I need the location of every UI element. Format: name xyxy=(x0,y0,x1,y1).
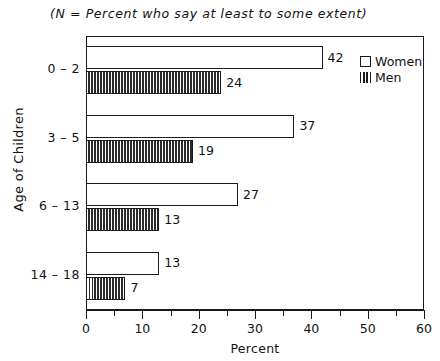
y-axis-label-3: 14 – 18 xyxy=(2,267,80,282)
bar-men-3 xyxy=(86,277,125,300)
x-tick-label-40: 40 xyxy=(296,321,326,336)
bar-value-women-3: 13 xyxy=(164,255,180,270)
x-tick-major-10 xyxy=(142,310,143,319)
bar-women-1 xyxy=(86,115,294,138)
x-tick-major-40 xyxy=(311,310,312,319)
bar-value-men-1: 19 xyxy=(198,143,214,158)
y-axis-label-0: 0 – 2 xyxy=(2,61,80,76)
x-tick-minor-45 xyxy=(340,310,341,316)
bar-men-2 xyxy=(86,208,159,231)
x-tick-minor-25 xyxy=(227,310,228,316)
x-tick-minor-5 xyxy=(114,310,115,316)
x-tick-label-0: 0 xyxy=(71,321,101,336)
x-tick-minor-15 xyxy=(171,310,172,316)
plot-area: 422437192713137 xyxy=(86,36,424,310)
x-tick-label-20: 20 xyxy=(184,321,214,336)
bar-women-0 xyxy=(86,46,323,69)
x-axis-title: Percent xyxy=(86,341,424,356)
x-tick-minor-55 xyxy=(396,310,397,316)
x-tick-major-30 xyxy=(255,310,256,319)
x-tick-major-0 xyxy=(86,310,87,319)
x-tick-major-60 xyxy=(424,310,425,319)
bar-women-2 xyxy=(86,183,238,206)
bar-value-men-2: 13 xyxy=(164,212,180,227)
chart-subtitle: (N = Percent who say at least to some ex… xyxy=(50,6,380,21)
x-tick-label-50: 50 xyxy=(353,321,383,336)
bar-value-women-0: 42 xyxy=(328,50,344,65)
bar-value-men-3: 7 xyxy=(130,280,138,295)
y-axis-title: Age of Children xyxy=(11,80,26,240)
x-tick-label-30: 30 xyxy=(240,321,270,336)
x-tick-major-50 xyxy=(368,310,369,319)
bar-value-women-2: 27 xyxy=(243,187,259,202)
x-tick-label-10: 10 xyxy=(127,321,157,336)
x-tick-major-20 xyxy=(199,310,200,319)
bar-men-0 xyxy=(86,71,221,94)
x-tick-minor-35 xyxy=(283,310,284,316)
x-tick-label-60: 60 xyxy=(409,321,439,336)
bar-men-1 xyxy=(86,140,193,163)
bar-women-3 xyxy=(86,252,159,275)
bar-value-men-0: 24 xyxy=(226,75,242,90)
bar-value-women-1: 37 xyxy=(299,118,315,133)
